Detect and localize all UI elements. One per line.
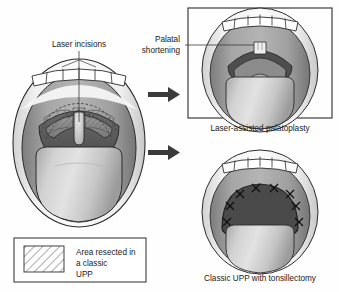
legend-line-3: UPP — [76, 270, 93, 279]
diagram-canvas: Laser incisions P — [0, 0, 339, 292]
tongue-bottom-panel — [226, 225, 294, 273]
label-laser-incisions: Laser incisions — [52, 40, 106, 49]
legend-line-2: a classic — [76, 259, 107, 268]
tongue — [36, 147, 122, 222]
tongue-top-panel — [226, 77, 294, 129]
legend-line-1: Area resected in — [76, 248, 136, 257]
caption-laser-assisted-palatoplasty: Laser-assisted palatoplasty — [210, 124, 310, 133]
hatched-resection-swatch — [24, 246, 64, 272]
figure-root: Laser incisions P — [0, 0, 339, 292]
residual-uvula-stub — [254, 42, 266, 54]
legend: Area resected in a classic UPP — [14, 238, 146, 282]
label-palatal-shortening-line2: shortening — [142, 46, 181, 55]
label-palatal-shortening-line1: Palatal — [155, 35, 180, 44]
caption-classic-upp-tonsillectomy: Classic UPP with tonsillectomy — [204, 274, 317, 283]
